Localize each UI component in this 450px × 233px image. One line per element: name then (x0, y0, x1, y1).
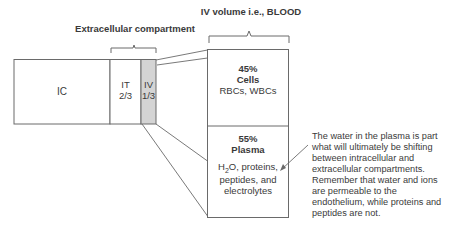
it-label: IT 2/3 (110, 80, 141, 102)
blood-bracket (209, 31, 289, 43)
connector-top-2 (157, 58, 208, 65)
explanatory-note: The water in the plasma is part what wil… (312, 131, 448, 219)
cells-desc: RBCs, WBCs (207, 86, 289, 97)
it-fraction: 2/3 (110, 91, 141, 102)
ic-label: IC (14, 86, 110, 98)
iv-label: IV 1/3 (141, 80, 156, 102)
extracellular-title: Extracellular compartment (60, 24, 210, 35)
connector-top-1 (156, 50, 208, 60)
cells-section: 45% Cells RBCs, WBCs (207, 64, 289, 97)
blood-title: IV volume i.e., BLOOD (196, 7, 306, 18)
iv-fraction: 1/3 (141, 91, 156, 102)
plasma-desc-line3: electrolytes (207, 186, 289, 197)
extracellular-bracket (111, 45, 156, 53)
plasma-section: 55% Plasma H2O, proteins, peptides, and … (207, 134, 289, 197)
plasma-desc-line1: H2O, proteins, (207, 162, 289, 175)
plasma-title: Plasma (207, 145, 289, 156)
connector-bottom-1 (156, 124, 208, 161)
